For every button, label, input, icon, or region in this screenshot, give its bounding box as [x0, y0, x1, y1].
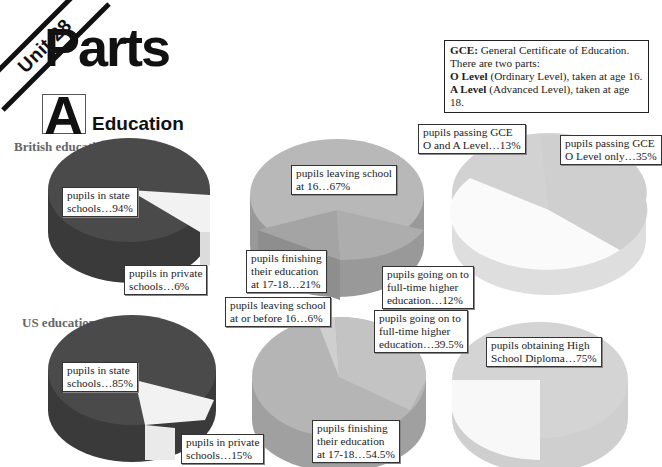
callout-us-higher: pupils going on tofull-time highereducat…: [374, 310, 468, 353]
callout-us-state: pupils in stateschools…85%: [62, 362, 138, 392]
callout-br-private: pupils in privateschools…6%: [124, 265, 207, 295]
callout-br-leaving: pupils leaving schoolat 16…67%: [291, 165, 397, 195]
callout-us-diploma: pupils obtaining HighSchool Diploma…75%: [486, 337, 602, 367]
callout-us-finishing: pupils finishingtheir educationat 17-18……: [312, 420, 400, 463]
callout-br-higher: pupils going on tofull-time highereducat…: [382, 266, 474, 309]
callout-us-leaving: pupils leaving schoolat or before 16…6%: [225, 297, 331, 327]
callout-br-finishing: pupils finishingtheir educationat 17-18……: [246, 250, 327, 293]
callout-br-state: pupils in stateschools…94%: [62, 187, 138, 217]
callout-br-oonly: pupils passing GCEO Level only…35%: [560, 135, 662, 165]
callout-br-oa: pupils passing GCEO and A Level…13%: [418, 124, 526, 154]
callout-us-private: pupils in privateschools…15%: [181, 434, 264, 464]
